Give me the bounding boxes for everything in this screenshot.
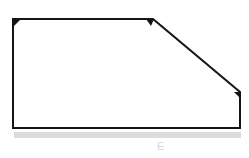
- pentagon-diagram: [0, 0, 249, 158]
- shadow-band: [14, 132, 241, 138]
- pentagon-outline: [13, 19, 240, 128]
- bottom-label: E: [157, 140, 164, 152]
